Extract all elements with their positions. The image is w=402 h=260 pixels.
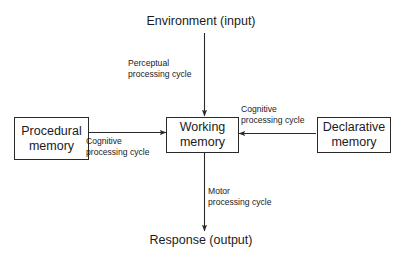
- node-declarative-memory[interactable]: Declarative memory: [317, 117, 391, 153]
- node-procedural-memory-line1: Procedural: [21, 124, 81, 139]
- edge-label-motor-processing-cycle: Motor processing cycle: [208, 186, 272, 208]
- edge-label-perceptual-line2: processing cycle: [128, 69, 192, 80]
- edge-label-cognitive-left-line1: Cognitive: [86, 136, 150, 147]
- response-output-label: Response (output): [0, 233, 402, 247]
- edge-label-perceptual-processing-cycle: Perceptual processing cycle: [128, 58, 192, 80]
- node-declarative-memory-line2: memory: [331, 135, 376, 150]
- edge-label-cognitive-left-processing-cycle: Cognitive processing cycle: [86, 136, 150, 158]
- node-procedural-memory-line2: memory: [29, 139, 74, 154]
- environment-input-label: Environment (input): [0, 14, 402, 28]
- edge-label-cognitive-right-processing-cycle: Cognitive processing cycle: [241, 104, 305, 126]
- edge-label-cognitive-right-line2: processing cycle: [241, 115, 305, 126]
- diagram-canvas: Environment (input) Response (output) Pr…: [0, 0, 402, 260]
- node-working-memory-line2: memory: [180, 135, 225, 150]
- node-declarative-memory-line1: Declarative: [323, 120, 386, 135]
- node-working-memory[interactable]: Working memory: [166, 117, 239, 153]
- edge-label-motor-line2: processing cycle: [208, 197, 272, 208]
- edge-label-cognitive-right-line1: Cognitive: [241, 104, 305, 115]
- node-procedural-memory[interactable]: Procedural memory: [14, 117, 89, 160]
- edge-label-motor-line1: Motor: [208, 186, 272, 197]
- edge-label-cognitive-left-line2: processing cycle: [86, 147, 150, 158]
- edge-label-perceptual-line1: Perceptual: [128, 58, 192, 69]
- node-working-memory-line1: Working: [180, 120, 226, 135]
